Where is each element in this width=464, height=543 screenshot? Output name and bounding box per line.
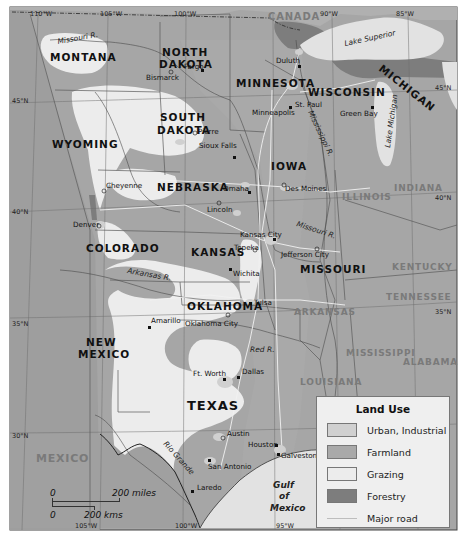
label-mexico: MEXICO (36, 452, 89, 465)
legend-item-major-road: Major road (317, 507, 449, 529)
label-south-dakota-1: SOUTH (160, 111, 206, 123)
label-gulf-3: Mexico (270, 503, 305, 513)
coord-45n-left: 45°N (12, 97, 29, 105)
scale-tick-miles-end (119, 498, 120, 502)
coord-100w-bottom: 100°W (175, 522, 198, 530)
coord-100w-top: 100°W (174, 10, 197, 18)
scale-bar: 0 200 miles 0 200 kms (50, 488, 170, 528)
coord-90w: 90°W (320, 10, 339, 18)
legend-label-urban: Urban, Industrial (367, 425, 446, 436)
label-green-bay: Green Bay (340, 109, 378, 118)
label-arkansas: ARKANSAS (294, 307, 356, 317)
label-iowa: IOWA (271, 160, 307, 172)
swatch-urban (327, 423, 357, 437)
coord-110w: 110°W (30, 10, 53, 18)
label-kentucky: KENTUCKY (392, 262, 453, 272)
label-louisiana: LOUISIANA (300, 377, 362, 387)
label-tennessee: TENNESSEE (386, 292, 452, 302)
label-laredo: Laredo (197, 483, 222, 492)
label-minnesota: MINNESOTA (236, 77, 315, 89)
label-cheyenne: Cheyenne (106, 181, 143, 190)
coord-45n-right: 45°N (435, 84, 452, 92)
legend-item-forestry: Forestry (317, 485, 449, 507)
coord-85w: 85°W (396, 10, 415, 18)
label-galveston: Galveston (281, 451, 317, 460)
label-ft-worth: Ft. Worth (193, 369, 226, 378)
label-san-antonio: San Antonio (208, 462, 251, 471)
swatch-major-road (327, 518, 357, 519)
label-gulf-1: Gulf (273, 480, 295, 490)
legend-item-urban: Urban, Industrial (317, 419, 449, 441)
label-new-mexico-1: NEW (86, 336, 117, 348)
label-denver: Denver (73, 220, 99, 229)
label-indiana: INDIANA (394, 183, 443, 193)
label-canada: CANADA (268, 11, 320, 22)
coord-95w-bottom: 95°W (276, 522, 295, 530)
label-sioux-falls: Sioux Falls (199, 141, 237, 150)
label-pierre: Pierre (198, 127, 219, 136)
legend-item-grazing: Grazing (317, 463, 449, 485)
scale-line-miles (52, 501, 120, 502)
coord-40n-left: 40°N (12, 208, 29, 216)
label-texas: TEXAS (187, 398, 239, 413)
legend-label-forestry: Forestry (367, 491, 406, 502)
label-new-mexico-2: MEXICO (78, 348, 130, 360)
label-tulsa: Tulsa (253, 298, 272, 307)
label-nebraska: NEBRASKA (157, 181, 229, 193)
label-amarillo: Amarillo (151, 316, 181, 325)
swatch-farmland (327, 445, 357, 459)
label-missouri: MISSOURI (300, 263, 366, 275)
label-north-dakota-1: NORTH (162, 46, 208, 58)
coord-105w-top: 105°W (100, 10, 123, 18)
label-duluth: Duluth (276, 56, 300, 65)
label-gulf-2: of (279, 491, 290, 501)
label-oklahoma: OKLAHOMA (187, 300, 263, 312)
coord-30n: 30°N (12, 432, 29, 440)
label-colorado: COLORADO (86, 242, 160, 254)
label-oklahoma-city: Oklahoma City (185, 319, 239, 328)
label-wyoming: WYOMING (52, 138, 119, 150)
label-wisconsin: WISCONSIN (308, 86, 386, 98)
label-austin: Austin (227, 429, 250, 438)
label-des-moines: Des Moines (285, 184, 327, 193)
label-illinois: ILLINOIS (342, 192, 392, 202)
label-dallas: Dallas (242, 367, 264, 376)
coord-35n-right: 35°N (435, 308, 452, 316)
label-omaha: Omaha (223, 184, 249, 193)
legend-item-farmland: Farmland (317, 441, 449, 463)
label-st-paul: St. Paul (295, 100, 322, 109)
label-kansas-city: Kansas City (240, 230, 283, 239)
scale-line-km (52, 506, 95, 507)
legend-label-grazing: Grazing (367, 469, 404, 480)
scale-km-zero: 0 (50, 510, 56, 520)
label-wichita: Wichita (233, 269, 260, 278)
swatch-forestry (327, 489, 357, 503)
legend-label-farmland: Farmland (367, 447, 411, 458)
legend-title: Land Use (317, 403, 449, 415)
label-montana: MONTANA (50, 51, 117, 63)
label-alabama: ALABAMA (403, 357, 458, 367)
label-bismarck: Bismarck (146, 73, 180, 82)
label-fargo: Fargo (184, 62, 204, 71)
label-houston: Houston (248, 440, 278, 449)
scale-miles-zero: 0 (50, 488, 56, 498)
label-lincoln: Lincoln (207, 205, 232, 214)
label-jefferson-city: Jefferson City (280, 250, 330, 259)
coord-35n-left: 35°N (12, 320, 29, 328)
legend: Land Use Urban, Industrial Farmland Graz… (316, 396, 450, 528)
legend-label-major-road: Major road (367, 513, 418, 524)
label-red-river: Red R. (250, 345, 275, 354)
scale-miles-label: 200 miles (112, 488, 156, 498)
swatch-grazing (327, 467, 357, 481)
coord-40n-right: 40°N (435, 194, 452, 202)
scale-km-label: 200 kms (84, 510, 123, 520)
label-topeka: Topeka (233, 243, 259, 252)
label-minneapolis: Minneapolis (252, 108, 295, 117)
